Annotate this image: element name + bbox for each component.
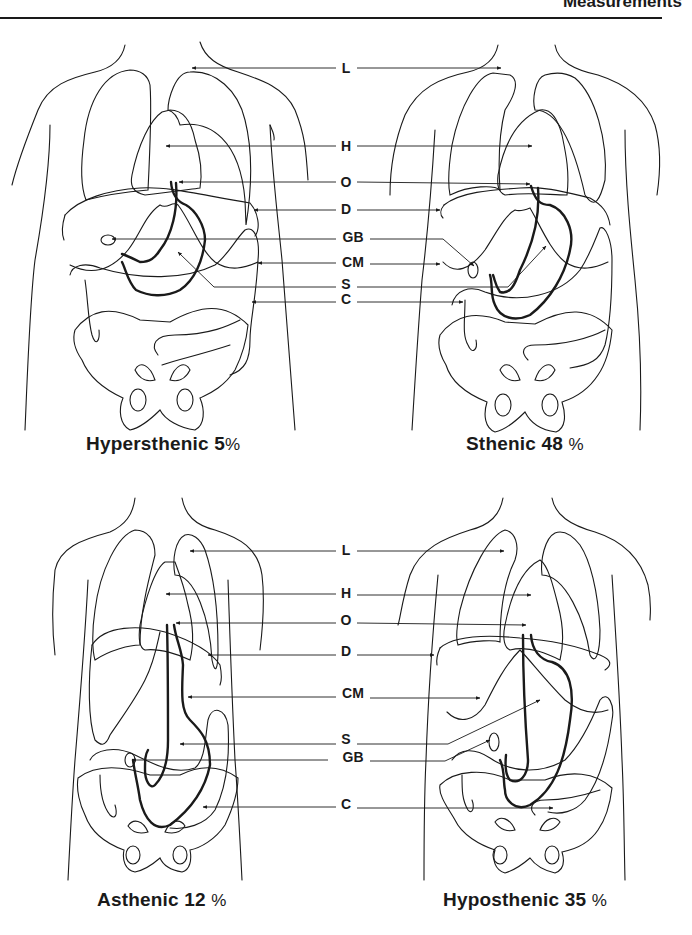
caption-hypersthenic: Hypersthenic 5% xyxy=(86,433,240,455)
panel-hyposthenic-drawing xyxy=(398,498,651,880)
label-gallbladder-top: GB xyxy=(343,229,364,245)
label-esophagus-bottom: O xyxy=(341,612,352,628)
caption-percent: 35 xyxy=(565,889,587,910)
caption-type: Sthenic xyxy=(466,433,536,454)
label-diaphragm-bottom: D xyxy=(341,643,351,659)
label-diaphragm-top: D xyxy=(341,201,351,217)
caption-sthenic: Sthenic 48 % xyxy=(466,433,584,455)
label-colon-top: C xyxy=(341,291,351,307)
label-costal-margin-top: CM xyxy=(342,254,364,270)
caption-percent: 12 xyxy=(184,889,206,910)
percent-sign: % xyxy=(211,891,226,910)
label-costal-margin-bottom: CM xyxy=(342,685,364,701)
label-lungs-top: L xyxy=(342,60,351,76)
panel-hypersthenic-drawing xyxy=(12,42,308,430)
percent-sign: % xyxy=(592,891,607,910)
caption-asthenic: Asthenic 12 % xyxy=(97,889,227,911)
caption-type: Hypersthenic xyxy=(86,433,209,454)
label-lungs-bottom: L xyxy=(342,542,351,558)
label-heart-top: H xyxy=(341,138,351,154)
panel-sthenic-drawing xyxy=(390,45,660,432)
caption-type: Hyposthenic xyxy=(443,889,559,910)
panel-asthenic-drawing xyxy=(53,498,264,880)
caption-percent: 48 xyxy=(542,433,564,454)
label-colon-bottom: C xyxy=(341,796,351,812)
label-gallbladder-bottom: GB xyxy=(343,749,364,765)
caption-percent: 5 xyxy=(214,433,225,454)
percent-sign: % xyxy=(225,435,240,454)
label-stomach-bottom: S xyxy=(341,731,350,747)
label-heart-bottom: H xyxy=(341,585,351,601)
percent-sign: % xyxy=(569,435,584,454)
caption-type: Asthenic xyxy=(97,889,179,910)
label-stomach-top: S xyxy=(341,276,350,292)
caption-hyposthenic: Hyposthenic 35 % xyxy=(443,889,607,911)
label-esophagus-top: O xyxy=(341,174,352,190)
